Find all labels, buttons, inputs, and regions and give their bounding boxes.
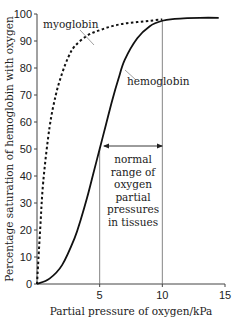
hemoglobin-curve	[37, 18, 219, 284]
oxygen-dissociation-chart: 010203040506070809010051015 myoglobin he…	[0, 0, 246, 321]
axes	[37, 14, 225, 284]
svg-text:partial: partial	[115, 191, 151, 203]
y-tick-label: 50	[20, 143, 32, 155]
svg-text:normal: normal	[114, 153, 152, 165]
curves	[37, 18, 219, 284]
y-tick-label: 60	[20, 116, 32, 128]
svg-text:pressures: pressures	[107, 203, 159, 215]
myoglobin-label: myoglobin	[43, 18, 99, 30]
hemoglobin-label: hemoglobin	[127, 75, 190, 87]
svg-text:in tissues: in tissues	[108, 216, 158, 228]
y-tick-label: 80	[20, 62, 32, 74]
y-tick-label: 30	[20, 197, 32, 209]
normal-range-label: normalrange ofoxygenpartialpressuresin t…	[107, 153, 159, 228]
y-tick-label: 90	[20, 35, 32, 47]
y-axis-title: Percentage saturation of hemoglobin with…	[3, 16, 15, 282]
svg-text:oxygen: oxygen	[114, 178, 152, 190]
annotations: myoglobin hemoglobin normalrange ofoxyge…	[43, 18, 190, 228]
x-axis-title: Partial pressure of oxygen/kPa	[50, 305, 213, 317]
myoglobin-leader-line	[80, 30, 94, 45]
y-tick-label: 0	[26, 278, 32, 290]
y-tick-label: 10	[20, 251, 32, 263]
y-tick-label: 70	[20, 89, 32, 101]
x-tick-label: 5	[97, 289, 103, 301]
y-tick-label: 20	[20, 224, 32, 236]
y-tick-label: 40	[20, 170, 32, 182]
y-tick-label: 100	[14, 8, 32, 20]
x-tick-label: 15	[219, 289, 231, 301]
x-tick-label: 10	[156, 289, 168, 301]
svg-text:range of: range of	[111, 166, 157, 178]
normal-range-arrow	[103, 144, 163, 149]
